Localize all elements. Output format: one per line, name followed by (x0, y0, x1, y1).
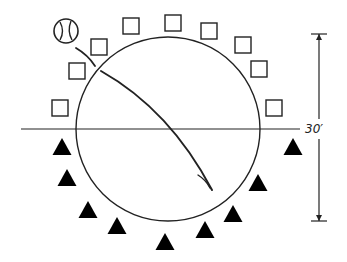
square-player-icon (69, 63, 85, 79)
triangle-player-icon (224, 205, 243, 222)
baseball-icon (54, 19, 78, 43)
dimension-marker: 30′ (305, 34, 327, 221)
square-player-icon (165, 15, 181, 31)
throw-arc-long (101, 71, 212, 190)
triangle-player-icon (108, 217, 127, 234)
triangle-player-icon (58, 169, 77, 186)
drill-diagram: 30′ (0, 0, 347, 262)
triangle-player-icon (156, 233, 175, 250)
square-player-icon (52, 100, 68, 116)
triangle-player-icon (284, 138, 303, 155)
square-player-icon (123, 18, 139, 34)
square-player-icon (266, 100, 282, 116)
square-player-icon (251, 61, 267, 77)
ball-path (76, 48, 212, 190)
triangle-player-icon (196, 221, 215, 238)
arrow-down-icon (316, 215, 322, 221)
dimension-label: 30′ (305, 122, 323, 136)
square-player-icon (235, 37, 251, 53)
square-player-icon (201, 23, 217, 39)
triangle-player-icon (53, 138, 72, 155)
ball-outline (54, 19, 78, 43)
square-player-icon (91, 39, 107, 55)
triangle-player-icon (249, 174, 268, 191)
triangle-player-icon (79, 201, 98, 218)
triangle-players (53, 138, 303, 250)
arrow-up-icon (316, 34, 322, 40)
square-players (52, 15, 282, 116)
